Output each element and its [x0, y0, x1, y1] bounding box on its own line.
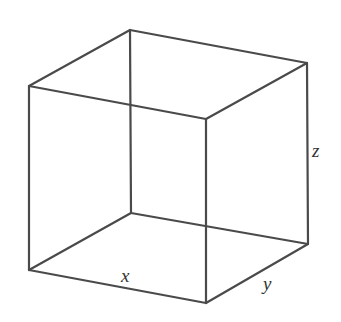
- cube-edge-left_top-back_top: [29, 30, 130, 86]
- y-axis-label: y: [261, 273, 272, 294]
- cube-edge-front_top-left_top: [29, 86, 206, 119]
- cube-edge-right_top-front_top: [206, 63, 307, 119]
- x-axis-label: x: [120, 265, 130, 286]
- cube-edge-right_top-right_bottom: [307, 63, 308, 244]
- cube-edge-right_bottom-front_bottom: [206, 244, 308, 303]
- cube-wireframe: x y z: [0, 0, 341, 322]
- cube-edge-back_top-back_bottom: [130, 30, 131, 213]
- cube-edge-left_bottom-back_bottom: [29, 213, 131, 270]
- cube-edges: [29, 30, 308, 303]
- z-axis-label: z: [311, 140, 320, 161]
- cube-diagram: x y z: [0, 0, 341, 322]
- cube-edge-back_top-right_top: [130, 30, 307, 63]
- cube-edge-front_bottom-left_bottom: [29, 270, 206, 303]
- cube-edge-back_bottom-right_bottom: [131, 213, 308, 244]
